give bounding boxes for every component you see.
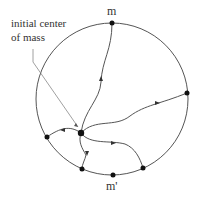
path-to-m [81, 23, 112, 133]
point-bottom-left [80, 167, 85, 172]
point-center-of-mass [78, 130, 84, 136]
annotation-arrowhead [74, 123, 78, 127]
point-m-prime [111, 173, 116, 178]
point-bottom-right [141, 166, 146, 171]
annotation-pointer [33, 49, 78, 127]
annotation-label-line1: initial center [11, 17, 67, 29]
point-left [45, 135, 50, 140]
arrow-icon [111, 141, 116, 145]
path-to-bottom-right [81, 133, 143, 168]
arrow-icon [155, 101, 160, 105]
label-m: m [107, 4, 117, 18]
path-to-right [81, 93, 187, 133]
center-of-mass-diagram: initial center of mass m m' [0, 0, 199, 197]
label-m-prime: m' [106, 179, 118, 193]
point-m [110, 21, 115, 26]
arrow-icon [99, 76, 103, 81]
annotation-label-line2: of mass [11, 31, 45, 43]
point-right [185, 91, 190, 96]
